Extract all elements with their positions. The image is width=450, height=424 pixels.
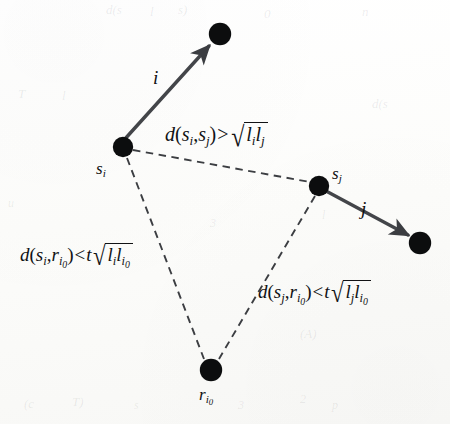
dashed-edge-sj-ri0	[219, 196, 315, 359]
formula-close-paren: )	[67, 244, 73, 265]
node-label-sub: j	[339, 172, 342, 184]
node-s-i	[113, 137, 133, 157]
formula-radicand: lili0	[105, 243, 132, 264]
formula-function: d	[20, 244, 30, 265]
formula-operator: <	[74, 244, 87, 265]
node-label-sub: i0	[206, 393, 214, 405]
node-label-sub: i	[103, 167, 106, 179]
node-r-i0	[200, 359, 222, 381]
formula-radicand: lilj	[244, 122, 267, 144]
formula-arg2: r	[51, 244, 58, 265]
node-label-s-j: sj	[332, 165, 342, 182]
edge-label-j: j	[361, 199, 366, 218]
radical-sign-icon: √	[93, 246, 106, 268]
formula-operator: <	[312, 281, 325, 302]
node-label-base: r	[199, 385, 206, 404]
node-label-r-i0: ri0	[199, 386, 213, 403]
radicand-term-2-sub: j	[261, 133, 265, 148]
node-arrow-head-j	[409, 232, 431, 254]
node-arrow-head-i	[209, 23, 231, 45]
formula-arg2: s	[198, 123, 206, 145]
formula-function: d	[258, 281, 268, 302]
dashed-edge-si-sj	[133, 150, 310, 182]
edge-label-i: i	[153, 68, 158, 87]
radicand-term-2-sub: i0	[359, 291, 367, 305]
formula-arg2-sub: i0	[297, 291, 305, 305]
figure-canvas: d(s l s) 0 n T l d(s u 3 l (A) (c T) s 3…	[0, 0, 450, 424]
node-label-base: s	[96, 159, 103, 178]
node-label-s-i: si	[96, 160, 106, 177]
radicand-term-2-sub: i0	[121, 254, 129, 268]
formula-d-si-ri0: d(si,ri0)<t√lili0	[20, 243, 133, 268]
formula-arg2: r	[289, 281, 296, 302]
dashed-edge-si-ri0	[127, 158, 204, 359]
node-label-base: s	[332, 164, 339, 183]
radical-sign-icon: √	[331, 283, 344, 305]
formula-d-sj-ri0: d(sj,ri0)<t√ljli0	[258, 280, 371, 305]
formula-radical: √lilj	[230, 122, 268, 148]
formula-open-paren: (	[175, 123, 182, 145]
node-label-subsub: 0	[209, 397, 213, 407]
radical-sign-icon: √	[231, 126, 244, 149]
formula-radical: √ljli0	[330, 280, 371, 305]
radicand-term-2-subsub: 0	[363, 295, 368, 306]
node-s-j	[309, 176, 329, 196]
formula-arg2-sub: i0	[59, 254, 67, 268]
radicand-term-2-subsub: 0	[125, 258, 130, 269]
formula-d-si-sj: d(si,sj)>√lilj	[165, 122, 268, 148]
formula-operator: >	[216, 123, 229, 145]
formula-function: d	[165, 123, 175, 145]
formula-radicand: ljli0	[343, 280, 370, 301]
formula-close-paren: )	[305, 281, 311, 302]
formula-radical: √lili0	[92, 243, 133, 268]
graph-drawing	[0, 0, 450, 424]
solid-arrow-j	[326, 191, 408, 235]
